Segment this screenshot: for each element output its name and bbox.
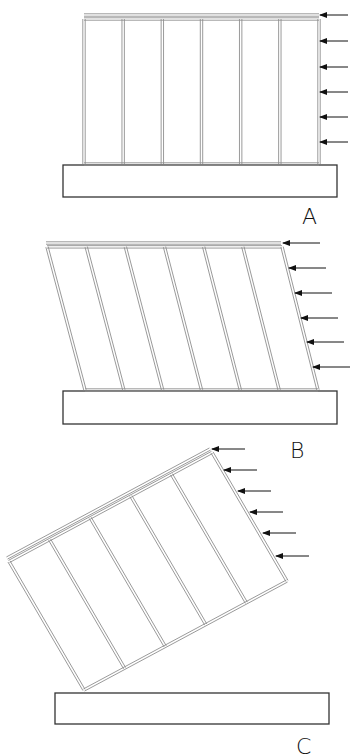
bottom-plate	[85, 389, 318, 391]
top-plate-lower	[8, 451, 212, 562]
stud	[170, 474, 247, 604]
wall-racking-diagram	[0, 0, 350, 754]
bottom-plate	[83, 580, 287, 691]
stud	[200, 19, 202, 164]
foundation	[55, 693, 329, 724]
top-plate	[6, 448, 210, 559]
stud	[279, 19, 281, 164]
stud	[8, 561, 85, 691]
stud	[161, 19, 163, 164]
top-plate-lower	[84, 18, 319, 20]
stud	[242, 247, 281, 391]
panel-c-overturning-wall	[6, 448, 329, 724]
panel-b-racking-wall	[46, 242, 350, 424]
panel-a-standing-wall	[63, 14, 348, 197]
label-c: C	[296, 736, 311, 754]
foundation	[63, 165, 337, 197]
stud	[203, 247, 242, 391]
top-plate	[46, 242, 281, 244]
stud	[124, 247, 164, 391]
stud	[122, 19, 124, 164]
foundation	[63, 391, 337, 424]
stud	[163, 247, 202, 391]
stud	[130, 495, 207, 625]
bottom-plate	[84, 163, 319, 165]
stud	[46, 247, 86, 391]
stud	[211, 452, 288, 582]
stud	[318, 19, 320, 164]
stud	[83, 19, 85, 164]
stud	[85, 247, 125, 391]
stud	[89, 517, 166, 647]
label-a: A	[302, 206, 317, 228]
label-b: B	[290, 440, 304, 462]
top-plate	[84, 14, 319, 16]
stud	[49, 539, 126, 669]
top-plate-lower	[47, 246, 282, 248]
stud	[239, 19, 241, 164]
